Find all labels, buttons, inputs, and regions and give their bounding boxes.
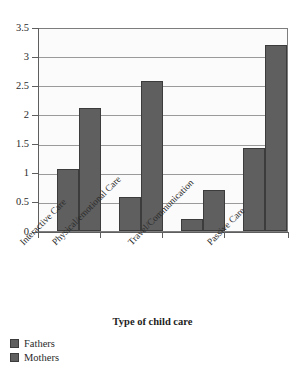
y-tick-1.5 [32,144,38,145]
gridline-1.5 [39,145,287,146]
legend-label-mothers: Mothers [24,352,59,363]
bar-fathers-physical-emotional-care [119,197,141,231]
legend-label-fathers: Fathers [24,338,55,349]
y-axis-label-3.5: 3.5 [0,23,29,33]
y-axis-line [38,28,39,233]
legend-swatch-icon-fathers [10,339,19,348]
y-axis-label-1.0: 1 [0,168,29,178]
chart-legend: Fathers Mothers [10,337,59,365]
gridline-3.0 [39,57,287,58]
x-axis-line [38,232,289,233]
bar-mothers-passive-care [265,45,287,231]
x-tick-2 [162,233,163,238]
x-tick-4 [288,233,289,238]
bar-chart: 3.5 3 2.5 2 1.5 1 0.5 0 Interactive Care… [0,0,305,371]
gridline-2.0 [39,115,287,116]
y-tick-3.0 [32,57,38,58]
x-axis-title: Type of child care [0,316,305,327]
legend-item-mothers: Mothers [10,351,59,364]
x-tick-1 [100,233,101,238]
y-tick-3.5 [32,28,38,29]
y-tick-1.0 [32,173,38,174]
y-axis-label-2.0: 2 [0,110,29,120]
bar-fathers-travel-communication [181,219,203,231]
y-tick-2.5 [32,86,38,87]
legend-item-fathers: Fathers [10,337,59,350]
gridline-2.5 [39,86,287,87]
y-axis-label-3.0: 3 [0,52,29,62]
y-axis-label-1.5: 1.5 [0,139,29,149]
bar-fathers-passive-care [243,148,265,231]
y-axis-label-0.5: 0.5 [0,197,29,207]
y-tick-2.0 [32,115,38,116]
legend-swatch-icon-mothers [10,353,19,362]
y-tick-0.5 [32,202,38,203]
y-axis-label-2.5: 2.5 [0,81,29,91]
